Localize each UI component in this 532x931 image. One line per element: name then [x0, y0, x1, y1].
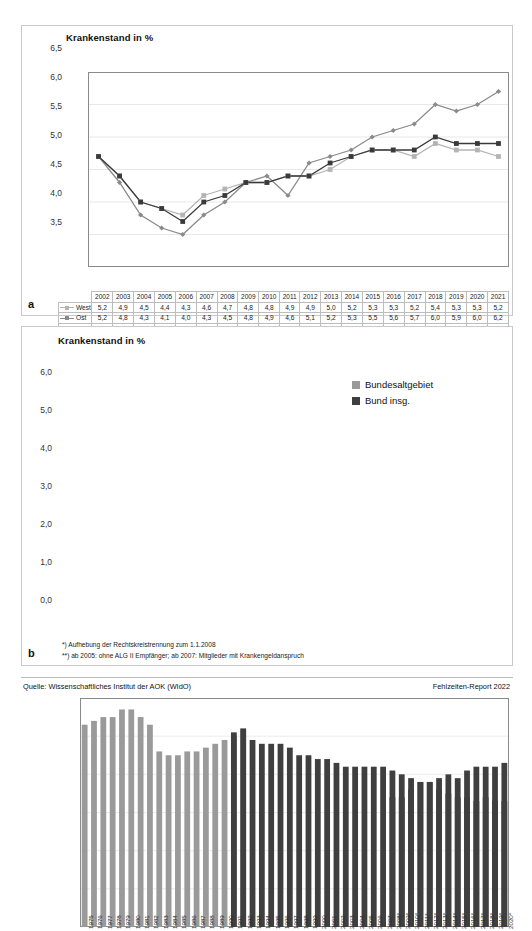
bar-xaxis-label: 1988: [208, 915, 215, 929]
report-label: Fehlzeiten-Report 2022: [433, 682, 510, 691]
legend-label-bundesaltgebiet: Bundesaltgebiet: [365, 379, 433, 390]
table-cell: 6,0: [467, 313, 488, 324]
table-row: West5,24,94,54,44,34,64,74,84,84,94,95,0…: [59, 302, 509, 313]
table-cell: 5,2: [342, 302, 363, 313]
bar-xaxis-label: 1997: [292, 915, 299, 929]
bar-xaxis-label: 2010*: [413, 913, 420, 929]
table-cell: 4,3: [134, 313, 155, 324]
bar-xaxis-label: 2002: [339, 915, 346, 929]
source-bar: Quelle: Wissenschaftliches Institut der …: [21, 677, 513, 696]
bar-xaxis-label: 2018*: [488, 913, 495, 929]
bar-xaxis-label: 2014*: [451, 913, 458, 929]
panel-a-line-chart: Krankenstand in % 6,5 6,0 5,5 5,0 4,5 4,…: [21, 25, 513, 316]
bar-xaxis-label: 1979: [124, 915, 131, 929]
table-series-label-west: West: [59, 302, 92, 313]
table-cell: 4,8: [113, 313, 134, 324]
table-year-header: 2017: [404, 292, 425, 303]
panel-b-title: Krankenstand in %: [58, 335, 145, 346]
bar-xaxis-label: 2000: [320, 915, 327, 929]
panel-b-bar-chart: Krankenstand in % 6,0 5,0 4,0 3,0 2,0 1,…: [21, 326, 513, 666]
table-cell: 5,3: [342, 313, 363, 324]
table-year-header: 2012: [300, 292, 321, 303]
panel-b-ytick-6: 0,0: [22, 595, 52, 605]
bar-xaxis-label: 1986: [190, 915, 197, 929]
bar-xaxis-label: 2020*: [507, 913, 514, 929]
table-cell: 4,9: [280, 302, 300, 313]
table-year-header: 2019: [446, 292, 467, 303]
bar-xaxis-label: 2006: [376, 915, 383, 929]
table-cell: 4,3: [175, 302, 196, 313]
panel-a-plot-area: [88, 72, 509, 267]
table-year-header: 2014: [342, 292, 363, 303]
bar-xaxis-label: 1991: [236, 915, 243, 929]
bar-xaxis-label: 1976: [96, 915, 103, 929]
bar-xaxis-label: 1983: [162, 915, 169, 929]
table-cell: 5,6: [383, 313, 404, 324]
table-cell: 4,8: [238, 313, 259, 324]
bar-xaxis-label: 1995: [274, 915, 281, 929]
table-series-name: Ost: [76, 314, 86, 321]
table-cell: 4,4: [154, 302, 175, 313]
panel-a-ytick-5: 4,0: [24, 188, 62, 198]
bar-xaxis-label: 2004: [358, 915, 365, 929]
panel-b-ytick-1: 5,0: [22, 405, 52, 415]
bar-xaxis-label: 1993: [255, 915, 262, 929]
bar-xaxis-label: 2013*: [441, 913, 448, 929]
bar-xaxis-label: 1992: [246, 915, 253, 929]
bar-xaxis-label: 2015*: [460, 913, 467, 929]
table-year-header: 2007: [196, 292, 217, 303]
bar-xaxis-label: 1975: [87, 915, 94, 929]
panel-a-ytick-2: 5,5: [24, 101, 62, 111]
bar-xaxis-label: 1977: [106, 915, 113, 929]
table-cell: 5,7: [404, 313, 425, 324]
bar-xaxis-label: 1989: [218, 915, 225, 929]
table-row: Ost5,24,84,34,14,04,34,54,84,94,65,15,25…: [59, 313, 509, 324]
table-year-header: 2008: [217, 292, 238, 303]
panel-a-title: Krankenstand in %: [66, 32, 153, 43]
panel-b-ytick-5: 1,0: [22, 557, 52, 567]
panel-a-ytick-6: 3,5: [24, 217, 62, 227]
legend-item-bund-insg: Bund insg.: [352, 395, 410, 406]
table-cell: 4,9: [259, 313, 280, 324]
source-label: Quelle: Wissenschaftliches Institut der …: [23, 682, 191, 691]
table-cell: 5,1: [300, 313, 321, 324]
table-cell: 4,5: [217, 313, 238, 324]
table-cell: 5,3: [383, 302, 404, 313]
legend-label-bund-insg: Bund insg.: [365, 395, 410, 406]
table-cell: 4,8: [238, 302, 259, 313]
panel-b-ytick-2: 4,0: [22, 443, 52, 453]
panel-b-ytick-4: 2,0: [22, 519, 52, 529]
table-year-header: 2015: [362, 292, 383, 303]
bar-xaxis-label: 1996: [283, 915, 290, 929]
table-cell: 5,2: [404, 302, 425, 313]
table-cell: 4,1: [154, 313, 175, 324]
panel-b-ytick-0: 6,0: [22, 367, 52, 377]
panel-a-ytick-1: 6,0: [24, 72, 62, 82]
bar-xaxis-label: 2012*: [432, 913, 439, 929]
panel-b-footnote-2: **) ab 2005: ohne ALG II Empfänger; ab 2…: [62, 652, 304, 659]
bar-xaxis-label: 1980: [134, 915, 141, 929]
bar-xaxis-label: 2019*: [497, 913, 504, 929]
table-cell: 5,3: [362, 302, 383, 313]
panel-a-ytick-0: 6,5: [24, 43, 62, 53]
table-year-header: 2021: [488, 292, 509, 303]
legend-item-bundesaltgebiet: Bundesaltgebiet: [352, 379, 433, 390]
table-year-header: 2020: [467, 292, 488, 303]
table-year-header: 2016: [383, 292, 404, 303]
table-cell: 5,4: [425, 302, 446, 313]
table-cell: 5,0: [321, 302, 342, 313]
table-year-header: 2010: [259, 292, 280, 303]
bar-xaxis-label: 2016*: [469, 913, 476, 929]
legend-swatch-bundesaltgebiet: [352, 381, 360, 389]
bar-xaxis-label: 1987: [199, 915, 206, 929]
bar-xaxis-label: 1990: [227, 915, 234, 929]
table-year-header: 2004: [134, 292, 155, 303]
bar-xaxis-label: 1981: [143, 915, 150, 929]
bar-xaxis-label: 1982: [152, 915, 159, 929]
bar-xaxis-label: 2017*: [479, 913, 486, 929]
bar-xaxis-label: 1994: [264, 915, 271, 929]
table-year-header: 2011: [280, 292, 300, 303]
table-series-label-ost: Ost: [59, 313, 92, 324]
table-year-header: 2003: [113, 292, 134, 303]
table-cell: 5,2: [321, 313, 342, 324]
